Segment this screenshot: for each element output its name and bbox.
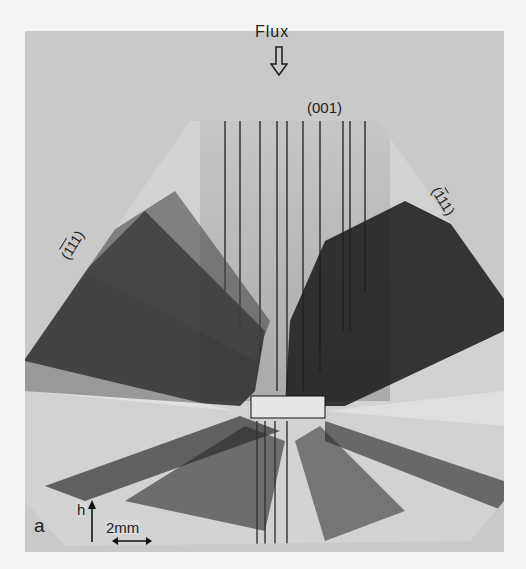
- topograph-photo: [25, 31, 504, 552]
- flux-label: Flux: [255, 24, 289, 40]
- plane-label-001: (001): [307, 100, 342, 115]
- seed-crystal: [251, 396, 325, 418]
- crystal-topograph: [25, 31, 504, 552]
- scale-bar-label: 2mm: [105, 520, 140, 535]
- flux-arrow-icon: [270, 46, 288, 76]
- scale-bar-icon: [112, 536, 152, 546]
- growth-arrow-icon: [87, 500, 97, 542]
- growth-direction-label: h: [76, 502, 86, 517]
- panel-label: a: [34, 516, 45, 535]
